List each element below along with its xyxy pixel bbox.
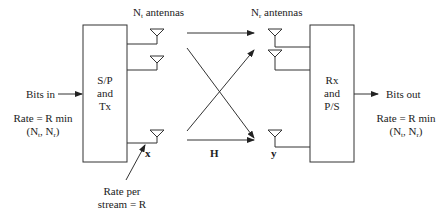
stream-rate-label: Rate per stream = R	[92, 185, 152, 211]
channel-h-label: H	[210, 147, 219, 160]
mimo-diagram: Nt antennas Nr antennas S/P and Tx Rx an…	[0, 0, 445, 216]
tx-block-label: S/P and Tx	[83, 74, 127, 113]
bits-in-label: Bits in	[26, 88, 55, 101]
output-rate-label: Rate = R min (Nt, Nr)	[370, 112, 442, 142]
rx-block-label: Rx and P/S	[310, 74, 354, 113]
rx-antennas-label: Nr antennas	[251, 6, 303, 23]
bits-out-label: Bits out	[386, 88, 421, 101]
input-rate-label: Rate = R min (Nt, Nr)	[8, 112, 78, 142]
tx-antennas-label: Nt antennas	[133, 6, 184, 23]
rx-vector-y-label: y	[271, 147, 277, 160]
tx-vector-x-label: x	[145, 147, 151, 160]
diagram-graphics	[0, 0, 445, 216]
